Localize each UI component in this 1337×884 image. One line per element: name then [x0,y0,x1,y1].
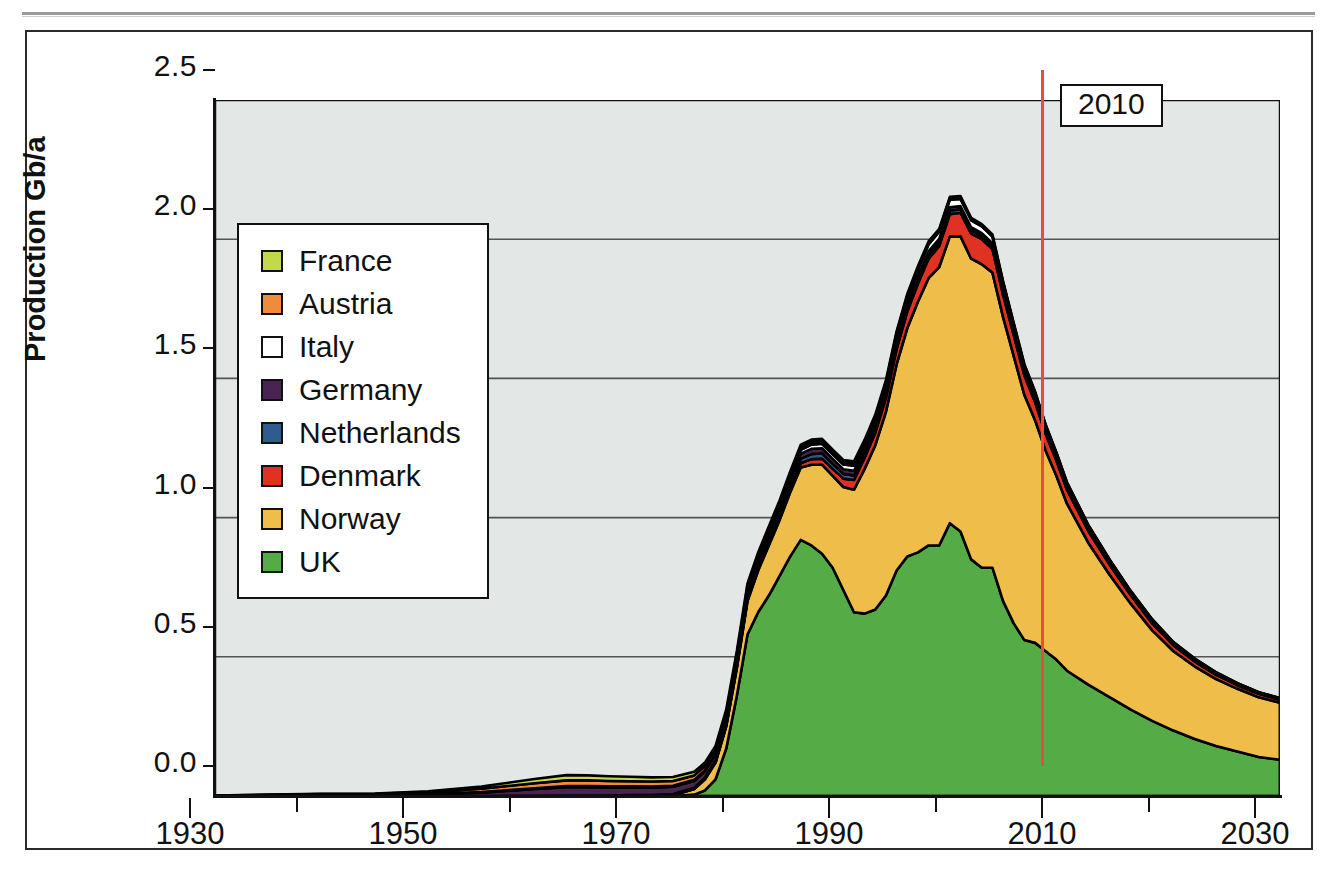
y-axis-tick [203,69,215,71]
legend-item-label: UK [299,545,341,579]
legend-item-label: Germany [299,373,422,407]
legend-swatch-icon [261,422,283,444]
legend-swatch-icon [261,293,283,315]
legend-swatch-icon [261,465,283,487]
x-axis-tick [189,798,191,818]
y-axis-tick-label: 0.0 [119,745,197,779]
x-axis-tick [615,798,617,818]
x-axis-tick [1148,798,1150,812]
figure-frame: Production Gb/a 0.00.51.01.52.02.5 19301… [25,30,1313,850]
legend-swatch-icon [261,551,283,573]
legend-item-france[interactable]: France [261,239,461,282]
x-axis-tick-label: 2030 [1195,816,1315,852]
y-axis-tick-label: 2.5 [119,49,197,83]
legend-item-label: Netherlands [299,416,461,450]
y-axis-title: Production Gb/a [19,0,52,362]
x-axis-tick [296,798,298,812]
legend-item-denmark[interactable]: Denmark [261,454,461,497]
figure-page: Production Gb/a 0.00.51.01.52.02.5 19301… [0,0,1337,884]
chart-legend: FranceAustriaItalyGermanyNetherlandsDenm… [237,223,489,599]
legend-swatch-icon [261,250,283,272]
y-axis-tick-label: 1.0 [119,467,197,501]
legend-item-austria[interactable]: Austria [261,282,461,325]
legend-item-label: Austria [299,287,392,321]
x-axis-tick-label: 1970 [556,816,676,852]
legend-item-italy[interactable]: Italy [261,325,461,368]
y-axis-tick-label: 2.0 [119,188,197,222]
legend-swatch-icon [261,379,283,401]
x-axis-tick [1041,798,1043,818]
legend-swatch-icon [261,336,283,358]
top-divider-rule [22,12,1315,15]
x-axis-tick [935,798,937,812]
legend-item-germany[interactable]: Germany [261,368,461,411]
legend-item-label: France [299,244,392,278]
year-marker-label: 2010 [1060,84,1163,127]
legend-item-norway[interactable]: Norway [261,497,461,540]
x-axis-tick-label: 2010 [982,816,1102,852]
year-marker-line [1041,70,1044,766]
y-axis-tick-label: 0.5 [119,606,197,640]
legend-item-label: Norway [299,502,401,536]
x-axis-tick-label: 1990 [769,816,889,852]
x-axis-tick [1254,798,1256,818]
x-axis-tick-label: 1950 [343,816,463,852]
y-axis-line [213,98,216,798]
legend-item-label: Denmark [299,459,421,493]
y-axis-tick-label: 1.5 [119,327,197,361]
x-axis-tick [402,798,404,818]
x-axis-line [213,795,1282,798]
x-axis-tick [509,798,511,812]
legend-swatch-icon [261,508,283,530]
x-axis-tick-label: 1930 [130,816,250,852]
legend-item-uk[interactable]: UK [261,540,461,583]
top-divider-rule-shadow [22,16,1315,17]
x-axis-tick [722,798,724,812]
legend-item-netherlands[interactable]: Netherlands [261,411,461,454]
legend-item-label: Italy [299,330,354,364]
x-axis-tick [828,798,830,818]
